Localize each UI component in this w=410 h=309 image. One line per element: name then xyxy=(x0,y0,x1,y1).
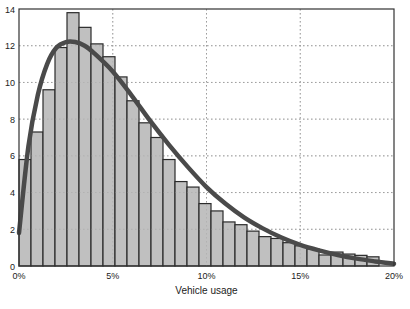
histogram-bar xyxy=(55,48,67,266)
x-axis-tick-labels: 0%5%10%15%20% xyxy=(12,271,403,281)
histogram-bar xyxy=(139,123,151,266)
histogram-chart: 02468101214 0%5%10%15%20% Vehicle usage xyxy=(0,0,410,309)
y-tick-label: 0 xyxy=(10,262,15,272)
x-tick-label: 5% xyxy=(106,271,119,281)
y-axis-tick-labels: 02468101214 xyxy=(5,5,15,272)
y-tick-label: 14 xyxy=(5,5,15,15)
y-tick-label: 8 xyxy=(10,115,15,125)
histogram-bar xyxy=(259,237,271,266)
histogram-bar xyxy=(79,27,91,266)
histogram-bar xyxy=(283,243,295,266)
histogram-bar xyxy=(31,132,43,266)
histogram-bar xyxy=(115,77,127,266)
y-tick-label: 10 xyxy=(5,78,15,88)
y-tick-label: 12 xyxy=(5,41,15,51)
histogram-bar xyxy=(199,204,211,266)
histogram-bar xyxy=(67,13,79,266)
histogram-bar xyxy=(235,225,247,266)
histogram-bar xyxy=(295,246,307,266)
x-tick-label: 15% xyxy=(291,271,309,281)
histogram-bar xyxy=(319,255,331,266)
histogram-bar xyxy=(151,138,163,267)
x-axis-title: Vehicle usage xyxy=(175,285,238,296)
histogram-bar xyxy=(223,222,235,266)
histogram-bar xyxy=(271,238,283,266)
x-tick-label: 20% xyxy=(385,271,403,281)
histogram-bars xyxy=(19,9,394,266)
x-tick-label: 0% xyxy=(12,271,25,281)
histogram-bar xyxy=(175,182,187,266)
histogram-bar xyxy=(103,57,115,266)
histogram-bar xyxy=(91,44,103,266)
y-tick-label: 2 xyxy=(10,225,15,235)
y-tick-label: 4 xyxy=(10,188,15,198)
histogram-bar xyxy=(211,211,223,266)
histogram-bar xyxy=(187,187,199,266)
histogram-bar xyxy=(127,101,139,266)
y-tick-label: 6 xyxy=(10,151,15,161)
histogram-bar xyxy=(163,160,175,266)
histogram-bar xyxy=(247,231,259,266)
histogram-bar xyxy=(43,90,55,266)
x-tick-label: 10% xyxy=(197,271,215,281)
